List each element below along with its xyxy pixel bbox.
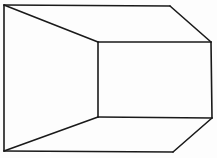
edge-inner-top-right-to-inner-bottom-right: [211, 42, 212, 118]
edge-outer-bottom-left-to-inner-bottom-left: [4, 117, 98, 151]
edge-outer-bottom-left-to-outer-bottom-right: [4, 151, 173, 152]
edge-outer-top-left-to-inner-top-left: [4, 5, 98, 42]
edge-inner-bottom-right-to-inner-bottom-left: [98, 117, 212, 118]
perspective-figure: [0, 0, 217, 158]
diagram-canvas: [0, 0, 217, 158]
edge-outer-top-right-to-inner-top-right: [170, 6, 211, 42]
edge-outer-bottom-right-to-inner-bottom-right: [173, 118, 212, 152]
edge-outer-top-left-to-outer-top-right: [4, 5, 170, 6]
